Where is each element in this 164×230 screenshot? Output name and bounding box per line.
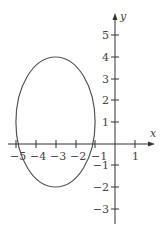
svg-text:2: 2 — [102, 94, 109, 107]
coordinate-plot: x y −5 −4 −3 −2 −1 1 −3 −2 −1 1 2 3 4 — [0, 0, 164, 230]
y-axis-label: y — [119, 10, 127, 23]
y-axis-arrow-icon — [113, 13, 118, 20]
x-tick-labels: −5 −4 −3 −2 −1 1 — [10, 150, 139, 163]
svg-text:1: 1 — [132, 150, 139, 163]
svg-text:−3: −3 — [50, 150, 66, 163]
x-axis-label: x — [150, 127, 157, 140]
x-axis-arrow-icon — [148, 142, 155, 147]
svg-text:1: 1 — [102, 116, 109, 129]
svg-text:−4: −4 — [30, 150, 46, 163]
svg-text:−2: −2 — [93, 181, 109, 194]
svg-text:−3: −3 — [93, 203, 109, 216]
svg-text:−1: −1 — [93, 159, 109, 172]
ellipse-curve — [16, 57, 95, 187]
svg-text:3: 3 — [102, 73, 109, 86]
svg-text:−5: −5 — [10, 150, 26, 163]
svg-text:5: 5 — [102, 29, 109, 42]
svg-text:−2: −2 — [70, 150, 86, 163]
svg-text:4: 4 — [102, 51, 109, 64]
